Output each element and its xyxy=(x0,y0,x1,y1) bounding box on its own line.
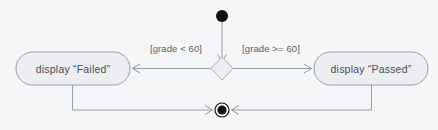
activity-diagram-svg: display “Failed” display “Passed” [grade… xyxy=(0,0,438,130)
action-display-failed-label: display “Failed” xyxy=(36,63,111,75)
action-display-failed[interactable]: display “Failed” xyxy=(16,52,130,85)
flow-decision-to-passed[interactable] xyxy=(233,64,312,73)
flow-decision-to-failed[interactable] xyxy=(133,64,212,73)
flow-initial-to-decision[interactable] xyxy=(218,22,227,62)
flow-failed-to-final[interactable] xyxy=(73,85,213,115)
initial-node[interactable] xyxy=(216,10,228,22)
final-node[interactable] xyxy=(215,103,229,117)
activity-diagram-canvas: display “Failed” display “Passed” [grade… xyxy=(0,0,438,130)
guard-label-right: [grade >= 60] xyxy=(242,43,300,54)
flow-passed-to-final[interactable] xyxy=(232,85,372,115)
action-display-passed-label: display “Passed” xyxy=(331,63,412,75)
decision-node[interactable] xyxy=(211,57,233,80)
action-display-passed[interactable]: display “Passed” xyxy=(314,52,428,85)
guard-label-left: [grade < 60] xyxy=(150,43,202,54)
